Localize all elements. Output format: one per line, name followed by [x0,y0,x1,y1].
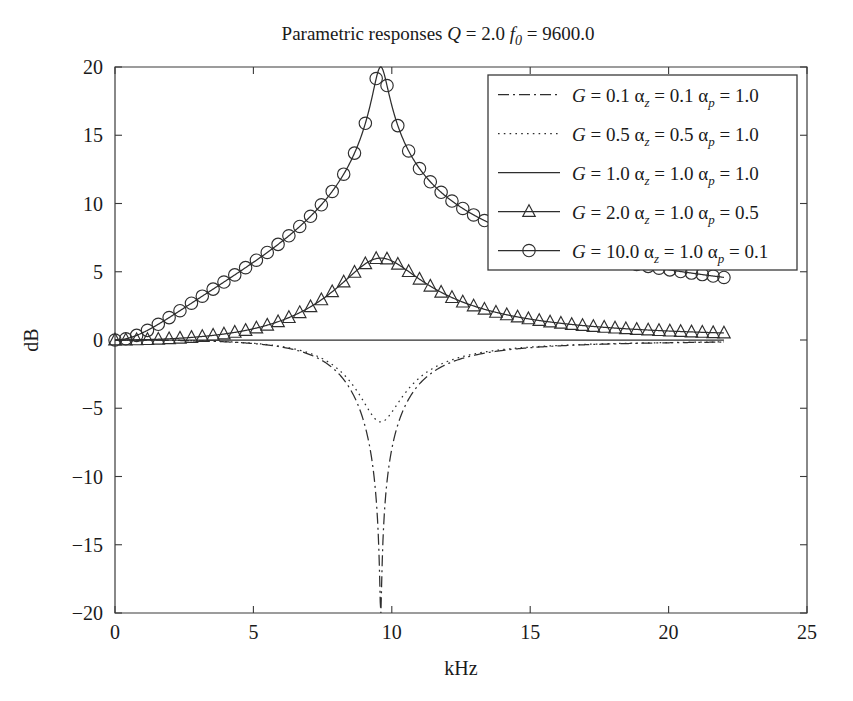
chart-figure: Parametric responses Q = 2.0 f0 = 9600.0… [0,0,853,701]
chart-legend[interactable]: G = 0.1 αz = 0.1 αp = 1.0G = 0.5 αz = 0.… [488,75,797,270]
y-axis-label: dB [20,328,42,351]
x-tick-label: 15 [520,621,540,643]
y-tick-label: −15 [72,534,103,556]
parametric-response-chart: Parametric responses Q = 2.0 f0 = 9600.0… [0,0,853,701]
x-tick-label: 20 [659,621,679,643]
x-tick-label: 25 [797,621,817,643]
y-tick-label: 10 [83,193,103,215]
y-tick-label: 15 [83,124,103,146]
x-tick-label: 5 [248,621,258,643]
y-tick-label: −5 [82,397,103,419]
y-tick-label: 20 [83,56,103,78]
x-tick-label: 0 [110,621,120,643]
y-tick-label: 5 [93,261,103,283]
x-axis-label-text: kHz [444,657,477,679]
y-axis-label-text: dB [20,328,42,351]
y-tick-label: −20 [72,602,103,624]
x-axis-label: kHz [444,657,477,679]
x-tick-label: 10 [382,621,402,643]
y-tick-label: 0 [93,329,103,351]
y-tick-label: −10 [72,466,103,488]
